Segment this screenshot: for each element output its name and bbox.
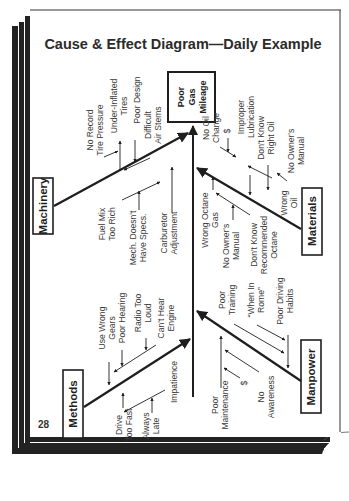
svg-text:Impatience: Impatience — [169, 361, 179, 403]
page-number: 28 — [38, 419, 50, 430]
svg-text:Loud: Loud — [143, 303, 153, 322]
cause-poor-design: Poor Design — [132, 76, 142, 124]
svg-text:Mech. Doesn't: Mech. Doesn't — [128, 210, 138, 265]
cause-difficult-air-stems: Difficult Air Stems — [143, 106, 163, 143]
svg-text:Recommended: Recommended — [259, 216, 269, 274]
svg-text:Tires: Tires — [119, 97, 129, 116]
svg-text:Use Wrong: Use Wrong — [97, 306, 107, 349]
svg-text:Engine: Engine — [166, 304, 176, 331]
svg-text:Carburetor: Carburetor — [159, 212, 169, 253]
svg-text:Can't Hear: Can't Hear — [156, 297, 166, 338]
cause-money-maintenance: $ — [239, 380, 249, 385]
svg-text:Oil: Oil — [289, 198, 299, 209]
category-label-materials: Materials — [306, 196, 318, 246]
svg-text:Difficult: Difficult — [143, 110, 153, 139]
svg-text:$: $ — [239, 380, 249, 385]
svg-text:Always: Always — [141, 412, 151, 439]
svg-text:Too Rich: Too Rich — [107, 207, 117, 241]
category-label-methods: Methods — [67, 380, 79, 427]
svg-text:Awareness: Awareness — [266, 376, 276, 418]
svg-text:Poor: Poor — [210, 396, 220, 414]
effect-line-1: Poor — [176, 86, 186, 107]
svg-text:Wrong: Wrong — [279, 190, 289, 215]
svg-text:No Owner's: No Owner's — [286, 129, 296, 174]
svg-text:Don't Know: Don't Know — [256, 115, 266, 159]
svg-text:Rome”: Rome” — [256, 287, 266, 313]
svg-text:Fuel Mix: Fuel Mix — [97, 207, 107, 240]
effect-line-2: Gas — [187, 88, 197, 105]
cause-dont-know-right-oil: Don't Know Right Oil — [256, 115, 276, 159]
svg-text:Manual: Manual — [231, 232, 241, 260]
svg-text:Maintenance: Maintenance — [220, 380, 230, 429]
svg-text:Radio Too: Radio Too — [133, 294, 143, 333]
cause-impatience: Impatience — [169, 361, 179, 403]
svg-text:Poor Design: Poor Design — [132, 76, 142, 124]
svg-text:Poor: Poor — [217, 291, 227, 309]
svg-text:Gears: Gears — [107, 316, 117, 339]
svg-text:Habits: Habits — [285, 289, 295, 313]
cause-improper-lubrication: Improper Lubrication — [236, 96, 256, 138]
cause-when-in-rome: “When In Rome” — [246, 282, 266, 317]
svg-text:No: No — [256, 391, 266, 402]
svg-text:Improper: Improper — [236, 100, 246, 135]
svg-text:“When In: “When In — [246, 282, 256, 317]
svg-text:Late: Late — [151, 417, 161, 434]
svg-text:Wrong Octane: Wrong Octane — [200, 192, 210, 247]
cause-no-record-tire-pressure: No Record Tire Pressure — [85, 104, 105, 155]
svg-text:Tire Pressure: Tire Pressure — [95, 104, 105, 155]
svg-text:No Oil: No Oil — [201, 116, 211, 140]
svg-text:Have Specs.: Have Specs. — [138, 214, 148, 263]
svg-text:$: $ — [222, 128, 232, 133]
svg-text:Poor Hearing: Poor Hearing — [117, 292, 127, 343]
svg-text:Under-Inflated: Under-Inflated — [109, 79, 119, 134]
svg-text:Air Stems: Air Stems — [153, 106, 163, 143]
category-label-manpower: Manpower — [305, 348, 317, 405]
cause-mech-doesnt-have-specs: Mech. Doesn't Have Specs. — [128, 210, 148, 265]
cause-fuel-mix-too-rich: Fuel Mix Too Rich — [97, 207, 117, 241]
svg-text:Don't Know: Don't Know — [249, 222, 259, 266]
svg-text:Change: Change — [211, 113, 221, 143]
svg-text:No Record: No Record — [85, 109, 95, 150]
cause-carburetor-adjustment: Carburetor Adjustment — [159, 211, 179, 255]
svg-text:Gas: Gas — [210, 212, 220, 228]
effect-line-3: Mileage — [198, 80, 208, 113]
svg-text:Too Fast: Too Fast — [124, 408, 134, 442]
svg-text:Drive: Drive — [114, 415, 124, 435]
svg-text:Poor Driving: Poor Driving — [275, 277, 285, 325]
cause-poor-hearing: Poor Hearing — [117, 292, 127, 343]
svg-text:Adjustment: Adjustment — [169, 211, 179, 255]
category-label-machinery: Machinery — [37, 177, 49, 234]
cause-money-oil: $ — [222, 128, 232, 133]
svg-text:Training: Training — [227, 284, 237, 315]
cause-no-oil-change: No Oil Change — [201, 113, 221, 143]
svg-text:Right Oil: Right Oil — [266, 121, 276, 154]
svg-text:Manual: Manual — [296, 137, 306, 165]
page-title: Cause & Effect Diagram—Daily Example — [44, 36, 321, 52]
book-page: Cause & Effect Diagram—Daily Example 28 … — [0, 0, 349, 501]
svg-text:Octane: Octane — [269, 231, 279, 259]
svg-text:Lubrication: Lubrication — [246, 96, 256, 138]
svg-text:No Owner's: No Owner's — [221, 224, 231, 269]
